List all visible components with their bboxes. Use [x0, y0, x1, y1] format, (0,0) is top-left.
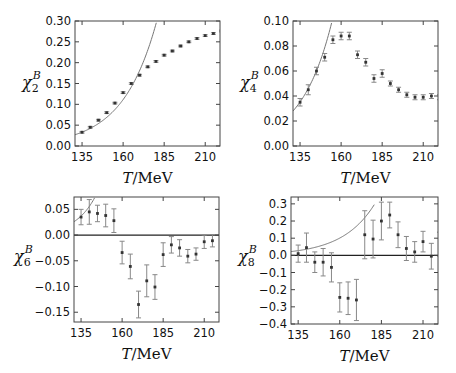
x-tick-label: 135 [289, 150, 311, 164]
y-tick-label: −0.05 [35, 254, 70, 268]
data-point [202, 235, 207, 248]
data-point [346, 282, 351, 315]
data-point [145, 65, 150, 68]
y-axis-title-superscript: B [250, 69, 259, 82]
y-axis-title-subscript: 8 [248, 256, 255, 269]
data-point [321, 248, 326, 275]
data-point [363, 59, 368, 67]
data-marker [179, 45, 182, 48]
data-marker [96, 212, 99, 215]
data-point [112, 102, 117, 105]
data-marker [122, 91, 125, 94]
data-marker [430, 255, 433, 258]
y-tick-label: 0.30 [45, 14, 71, 28]
data-marker [81, 131, 84, 134]
data-marker [307, 88, 310, 91]
data-marker [355, 299, 358, 302]
data-point [429, 94, 434, 99]
x-tick-label: 160 [112, 150, 134, 164]
data-point [339, 32, 344, 40]
data-marker [381, 72, 384, 75]
plot-frame [74, 197, 219, 322]
data-marker [178, 247, 181, 250]
data-point [103, 204, 108, 227]
data-marker [89, 126, 92, 129]
data-point [306, 85, 311, 95]
data-point [413, 95, 418, 100]
x-axis-title: T/MeV [339, 347, 390, 365]
data-marker [80, 216, 83, 219]
y-tick-label: 0.10 [45, 97, 71, 111]
data-marker [340, 35, 343, 38]
data-point [121, 91, 126, 94]
data-marker [137, 303, 140, 306]
data-point [429, 243, 434, 269]
data-point [371, 75, 376, 83]
y-tick-label: −0.2 [259, 283, 287, 297]
data-marker [373, 77, 376, 80]
y-tick-label: 0.05 [45, 118, 71, 132]
data-point [371, 220, 376, 258]
data-point [153, 60, 158, 63]
data-point [128, 254, 133, 279]
data-point [111, 209, 116, 233]
data-marker [121, 251, 124, 254]
data-marker [154, 286, 157, 289]
x-axis-title: T/MeV [121, 345, 172, 363]
data-point [177, 240, 182, 256]
data-marker [397, 88, 400, 91]
y-tick-label: 0.25 [45, 35, 71, 49]
data-marker [305, 246, 308, 249]
hrg-curve [75, 23, 156, 135]
y-axis-title-superscript: B [24, 243, 33, 256]
y-tick-label: 0.00 [44, 228, 70, 242]
data-point [178, 45, 183, 48]
y-tick-label: −0.1 [259, 266, 287, 280]
data-point [380, 70, 385, 78]
chart-panel-chi6: 135160185210−0.15−0.10−0.050.000.05T/MeV… [13, 197, 219, 363]
data-point [387, 202, 392, 228]
data-marker [145, 279, 148, 282]
data-point [421, 95, 426, 100]
chart-panel-chi4: 1351601852100.000.020.040.060.080.10T/Me… [239, 14, 442, 187]
y-tick-label: 0.3 [269, 197, 287, 211]
data-point [314, 67, 319, 75]
data-point [96, 119, 101, 122]
data-marker [163, 54, 166, 57]
y-axis-title-subscript: 4 [250, 82, 257, 95]
data-marker [438, 243, 441, 246]
y-axis-title-superscript: B [248, 243, 257, 256]
x-tick-label: 210 [194, 150, 216, 164]
data-point [161, 243, 166, 267]
y-tick-label: 0.20 [45, 56, 71, 70]
x-axis-title: T/MeV [340, 169, 391, 187]
figure: 1351601852100.000.050.100.150.200.250.30… [0, 0, 456, 373]
y-tick-label: 0.08 [263, 39, 289, 53]
data-marker [363, 233, 366, 236]
data-point [104, 111, 109, 114]
x-tick-label: 210 [412, 150, 434, 164]
y-tick-label: −0.10 [35, 280, 70, 294]
data-marker [313, 261, 316, 264]
x-tick-label: 160 [329, 328, 351, 342]
y-tick-label: −0.3 [259, 300, 287, 314]
data-marker [297, 252, 300, 255]
data-marker [364, 61, 367, 64]
x-axis-title: T/MeV [122, 169, 173, 187]
data-point [95, 205, 100, 221]
data-point [304, 233, 309, 262]
data-marker [138, 74, 141, 77]
hrg-curve [291, 205, 374, 252]
x-tick-label: 210 [193, 326, 215, 340]
plot-area [291, 202, 442, 320]
data-point [354, 279, 359, 320]
data-marker [204, 34, 207, 37]
data-point [379, 202, 384, 240]
y-axis-title: χ8B [237, 243, 257, 269]
data-point [211, 32, 216, 35]
data-marker [414, 96, 417, 99]
data-point [296, 245, 301, 262]
x-axis-title-unit: /MeV [349, 347, 390, 365]
hrg-curve [293, 23, 332, 111]
x-tick-label: 135 [70, 326, 92, 340]
